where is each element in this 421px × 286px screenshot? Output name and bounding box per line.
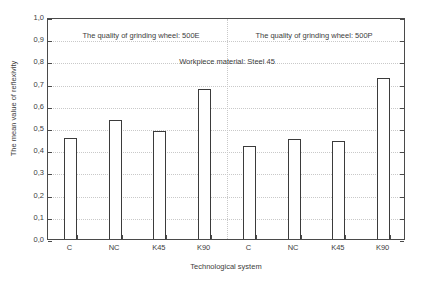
y-tick-left [48, 130, 52, 131]
y-tick-label: 0,4 [18, 147, 44, 155]
y-tick-right [400, 19, 404, 20]
gridline-y [48, 197, 404, 198]
gridline-y [48, 152, 404, 153]
gridline-y [48, 86, 404, 87]
y-tick-left [48, 86, 52, 87]
y-tick-right [400, 86, 404, 87]
gridline-y [48, 41, 404, 42]
bar [288, 139, 301, 239]
y-tick-label: 0,7 [18, 81, 44, 89]
x-tick-label: NC [273, 243, 313, 252]
y-tick-label: 0,8 [18, 58, 44, 66]
x-tick-label: C [49, 243, 89, 252]
y-tick-right [400, 197, 404, 198]
y-tick-left [48, 152, 52, 153]
y-tick-label: 0,2 [18, 192, 44, 200]
y-tick-left [48, 108, 52, 109]
x-tick [166, 235, 167, 239]
y-tick-label: 0,5 [18, 125, 44, 133]
x-axis-title: Technological system [47, 262, 405, 271]
annotation-left-group: The quality of grinding wheel: 500E [56, 31, 226, 40]
y-tick-right [400, 108, 404, 109]
gridline-y [48, 130, 404, 131]
gridline-y [48, 108, 404, 109]
x-tick-label: K45 [318, 243, 358, 252]
bar [198, 89, 211, 239]
x-axis-tick-labels: CNCK45K90CNCK45K90 [47, 243, 405, 255]
x-tick-label: K45 [139, 243, 179, 252]
y-tick-label: 0,9 [18, 36, 44, 44]
y-tick-left [48, 41, 52, 42]
y-tick-right [400, 241, 404, 242]
bar [377, 78, 390, 239]
x-tick [122, 235, 123, 239]
y-tick-left [48, 197, 52, 198]
x-tick [77, 235, 78, 239]
y-tick-label: 0,1 [18, 214, 44, 222]
y-tick-right [400, 219, 404, 220]
bar [332, 141, 345, 239]
x-tick-label: C [228, 243, 268, 252]
y-tick-right [400, 152, 404, 153]
x-tick [345, 235, 346, 239]
annotation-right-group: The quality of grinding wheel: 500P [228, 31, 400, 40]
plot-area: The quality of grinding wheel: 500E The … [47, 18, 405, 240]
bar [243, 146, 256, 239]
y-tick-left [48, 219, 52, 220]
chart-figure: The mean value of reflexivity 0,00,10,20… [0, 0, 421, 286]
x-tick-label: NC [94, 243, 134, 252]
y-tick-right [400, 174, 404, 175]
y-tick-label: 1,0 [18, 14, 44, 22]
y-tick-label: 0,3 [18, 169, 44, 177]
x-tick [390, 235, 391, 239]
y-tick-left [48, 19, 52, 20]
y-tick-left [48, 241, 52, 242]
y-tick-label: 0,0 [18, 236, 44, 244]
y-tick-left [48, 174, 52, 175]
group-divider [227, 19, 228, 239]
y-tick-right [400, 130, 404, 131]
x-tick [211, 235, 212, 239]
gridline-y [48, 219, 404, 220]
x-tick [256, 235, 257, 239]
x-tick-label: K90 [363, 243, 403, 252]
x-tick [301, 235, 302, 239]
gridline-y [48, 174, 404, 175]
bar [153, 131, 166, 239]
y-tick-label: 0,6 [18, 103, 44, 111]
bar [109, 120, 122, 239]
x-tick-label: K90 [184, 243, 224, 252]
y-tick-right [400, 41, 404, 42]
annotation-workpiece-material: Workpiece material: Steel 45 [48, 57, 406, 66]
bar [64, 138, 77, 239]
y-axis-tick-labels: 0,00,10,20,30,40,50,60,70,80,91,0 [14, 18, 44, 240]
